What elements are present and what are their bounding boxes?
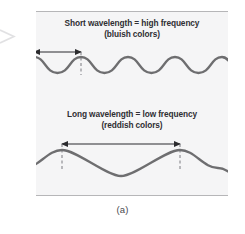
long-wavelength-wave-diagram <box>36 134 228 192</box>
page-edge-chevron-icon <box>0 27 20 47</box>
short-wavelength-measure-arrow <box>36 49 82 55</box>
short-wavelength-wave-diagram <box>36 43 228 98</box>
short-wavelength-caption: Short wavelength = high frequency (bluis… <box>36 18 228 40</box>
figure-caption-label: (a) <box>0 204 245 215</box>
long-wavelength-block: Long wavelength = low frequency (reddish… <box>36 109 228 192</box>
long-wavelength-subtitle: (reddish colors) <box>36 120 228 131</box>
short-wavelength-wave-path <box>36 57 228 73</box>
short-wavelength-subtitle: (bluish colors) <box>36 29 228 40</box>
wavelength-figure-panel: Short wavelength = high frequency (bluis… <box>36 11 228 196</box>
long-wavelength-caption: Long wavelength = low frequency (reddish… <box>36 109 228 131</box>
long-wavelength-measure-arrow <box>61 141 181 147</box>
long-wavelength-wave-path <box>36 150 228 176</box>
short-wavelength-block: Short wavelength = high frequency (bluis… <box>36 18 228 98</box>
long-wavelength-title: Long wavelength = low frequency <box>36 109 228 120</box>
short-wavelength-title: Short wavelength = high frequency <box>36 18 228 29</box>
